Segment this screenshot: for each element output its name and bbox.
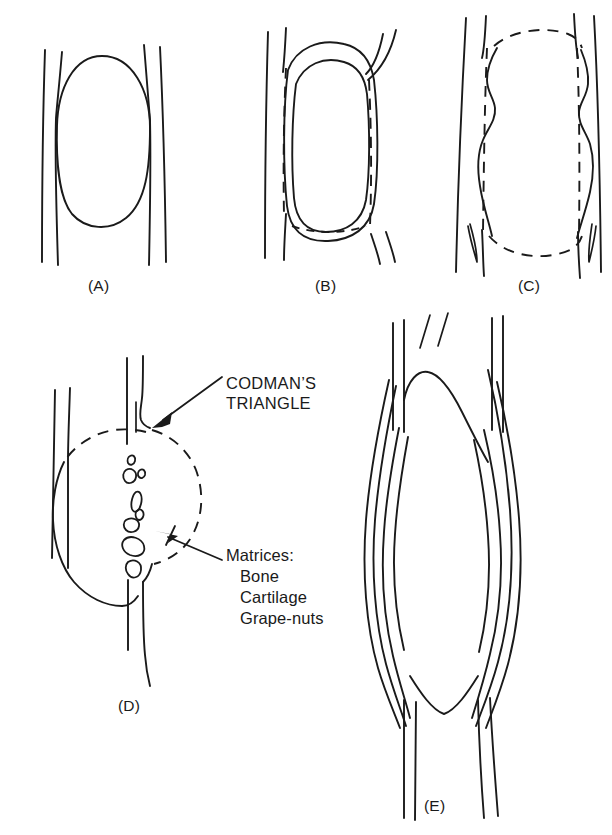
panel-c-left-inner-cortex-lower bbox=[482, 230, 484, 276]
panel-d-mass-border-left bbox=[53, 462, 122, 606]
panel-e-right-lamina-3 bbox=[472, 430, 501, 718]
panel-label-b: (B) bbox=[315, 277, 336, 295]
panel-c-lesion-left-border bbox=[478, 48, 497, 236]
panel-c-lesion-margin-dashed-bottom bbox=[489, 236, 582, 256]
panel-e-left-lamina-2 bbox=[373, 386, 406, 726]
panel-d-drawing bbox=[52, 356, 222, 686]
panel-e-left-lamina-4 bbox=[394, 437, 408, 650]
matrices-callout-heading: Matrices: bbox=[226, 546, 294, 564]
matrix-fleck-6 bbox=[122, 537, 144, 556]
panel-c-endosteal-spur-right bbox=[589, 224, 596, 262]
matrices-callout-item-cartilage: Cartilage bbox=[226, 587, 324, 608]
matrix-fleck-3 bbox=[138, 469, 145, 478]
panel-label-a: (A) bbox=[88, 277, 109, 295]
panel-a-drawing bbox=[42, 45, 166, 265]
panel-a-right-outer-cortex bbox=[160, 47, 166, 262]
codman-leader-line bbox=[163, 377, 222, 420]
matrices-callout: Matrices: Bone Cartilage Grape-nuts bbox=[226, 545, 324, 629]
panel-b-inner-cavity bbox=[292, 60, 369, 232]
panel-d-codman-lower-spur bbox=[143, 564, 152, 582]
panel-b-left-inner-cortex-lower bbox=[284, 214, 286, 260]
panel-e-lower-lesion-margin bbox=[410, 676, 478, 714]
matrices-callout-item-bone: Bone bbox=[226, 566, 324, 587]
panel-c-left-inner-cortex-upper bbox=[482, 16, 486, 58]
panel-e-right-cortex-lower bbox=[478, 700, 484, 818]
matrix-fleck-7 bbox=[126, 560, 141, 577]
panel-d-left-inner-cortex bbox=[68, 388, 70, 568]
matrices-leader-line bbox=[168, 537, 222, 560]
panel-d-matrix-calcifications bbox=[122, 455, 145, 577]
codman-triangle-callout: CODMAN’S TRIANGLE bbox=[226, 373, 316, 413]
panel-d-right-inner-cortex-lower bbox=[143, 582, 150, 686]
panel-b-left-inner-cortex-upper bbox=[283, 28, 286, 72]
panel-e-left-cortex-lower-inner bbox=[415, 702, 416, 820]
matrix-fleck-5 bbox=[124, 518, 139, 532]
panel-c-right-inner-cortex-lower bbox=[578, 232, 580, 278]
panel-c-original-cortex-dashed-right bbox=[577, 48, 579, 234]
panel-e-break-mark-1 bbox=[420, 315, 430, 348]
figure-line-art bbox=[0, 0, 612, 835]
panel-label-e: (E) bbox=[424, 797, 445, 815]
codman-callout-line-1: CODMAN’S bbox=[226, 374, 316, 392]
panel-c-lesion-margin-dashed-top bbox=[494, 30, 582, 48]
panel-d-codman-upper-periosteum bbox=[140, 356, 150, 428]
panel-d-mass-border-lower bbox=[122, 596, 138, 606]
matrices-callout-item-grape-nuts: Grape-nuts bbox=[226, 608, 324, 629]
panel-b-drawing bbox=[265, 28, 396, 264]
panel-label-c: (C) bbox=[518, 277, 540, 295]
codman-arrowhead-icon bbox=[152, 412, 172, 428]
panel-e-right-lamina-2 bbox=[486, 382, 521, 728]
panel-a-lesion-outline bbox=[57, 56, 150, 227]
panel-e-left-lamina-3 bbox=[383, 428, 410, 718]
panel-c-drawing bbox=[456, 14, 601, 278]
panel-e-right-lamina-4 bbox=[474, 440, 489, 652]
panel-d-mass-margin-dashed-right bbox=[152, 430, 201, 564]
codman-callout-line-2: TRIANGLE bbox=[226, 394, 311, 412]
panel-e-right-cortex-lower-inner bbox=[490, 698, 498, 816]
matrix-fleck-8 bbox=[136, 509, 144, 520]
panel-e-break-mark-2 bbox=[438, 313, 448, 346]
panel-c-endosteal-spur-left bbox=[468, 224, 477, 262]
matrices-arrowhead-icon bbox=[155, 531, 178, 543]
panel-b-right-inner-cortex-lower bbox=[371, 234, 380, 264]
matrix-fleck-2 bbox=[123, 469, 136, 483]
panel-label-d: (D) bbox=[118, 697, 140, 715]
panel-c-left-outer-cortex bbox=[456, 18, 466, 272]
panel-b-left-outer-cortex bbox=[265, 32, 268, 258]
matrix-fleck-1 bbox=[128, 455, 136, 464]
panel-e-drawing bbox=[365, 313, 521, 820]
panel-a-left-outer-cortex bbox=[42, 50, 45, 262]
panel-b-right-outer-cortex-lower bbox=[386, 232, 395, 262]
figure-root: (A) (B) (C) (D) (E) CODMAN’S TRIANGLE Ma… bbox=[0, 0, 612, 835]
